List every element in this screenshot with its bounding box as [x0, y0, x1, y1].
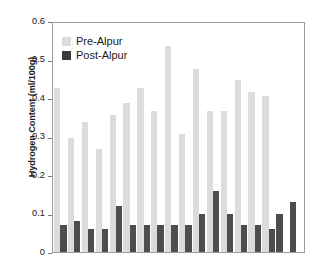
bar-post-alpur	[116, 206, 122, 252]
bar-group	[221, 23, 235, 252]
y-axis-tick-mark	[48, 253, 52, 254]
legend-swatch-pre	[62, 37, 71, 46]
bar-post-alpur	[60, 225, 66, 252]
bar-post-alpur	[157, 225, 163, 252]
y-axis-tick-label: 0.1	[32, 208, 45, 218]
legend-swatch-post	[62, 51, 71, 60]
bar-group	[276, 23, 290, 252]
bar-group	[248, 23, 262, 252]
legend-item: Post-Alpur	[62, 50, 127, 61]
y-axis-tick-label: 0.2	[32, 170, 45, 180]
bar-post-alpur	[102, 229, 108, 252]
legend-item: Pre-Alpur	[62, 36, 127, 47]
bar-post-alpur	[227, 214, 233, 252]
bar-pre-alpur	[165, 46, 171, 252]
bar-group	[165, 23, 179, 252]
bar-post-alpur	[74, 221, 80, 252]
bar-group	[207, 23, 221, 252]
bar-group	[290, 23, 304, 252]
bar-group	[137, 23, 151, 252]
y-axis-tick-label: 0.3	[32, 131, 45, 141]
bar-post-alpur	[255, 225, 261, 252]
bar-post-alpur	[290, 202, 296, 252]
y-axis-tick-label: 0	[40, 247, 45, 257]
legend-label: Post-Alpur	[76, 50, 127, 61]
bar-group	[193, 23, 207, 252]
y-axis-ticks: 0.60.50.40.30.20.10	[0, 0, 52, 277]
y-axis-tick-label: 0.5	[32, 54, 45, 64]
bar-group	[179, 23, 193, 252]
bar-post-alpur	[276, 214, 282, 252]
bar-group	[235, 23, 249, 252]
legend-label: Pre-Alpur	[76, 36, 122, 47]
bar-post-alpur	[185, 225, 191, 252]
bar-post-alpur	[269, 229, 275, 252]
chart-legend: Pre-AlpurPost-Alpur	[62, 36, 127, 61]
y-axis-tick-label: 0.4	[32, 93, 45, 103]
bar-group	[262, 23, 276, 252]
bar-post-alpur	[199, 214, 205, 252]
bar-post-alpur	[241, 225, 247, 252]
y-axis-tick-label: 0.6	[32, 16, 45, 26]
bar-post-alpur	[88, 229, 94, 252]
bar-post-alpur	[171, 225, 177, 252]
chart-container: Hydrogen Content (ml/100g) 0.60.50.40.30…	[0, 0, 317, 277]
bar-post-alpur	[130, 225, 136, 252]
bar-post-alpur	[144, 225, 150, 252]
bar-group	[151, 23, 165, 252]
bar-post-alpur	[213, 191, 219, 252]
